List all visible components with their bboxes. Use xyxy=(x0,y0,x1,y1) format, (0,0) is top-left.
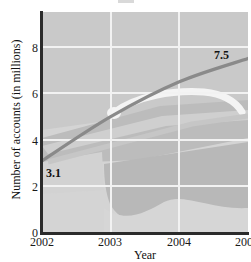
annotation-start-value: 3.1 xyxy=(46,167,61,179)
chart-figure: 8 6 4 2 0 2002 2003 2004 2005 Number of … xyxy=(0,0,251,262)
data-series-line xyxy=(42,12,248,233)
y-axis-title: Number of accounts (in millions) xyxy=(9,20,24,220)
y-axis-spine xyxy=(40,11,43,235)
plot-area xyxy=(42,12,248,233)
x-axis-spine xyxy=(40,232,249,235)
cropped-title-remnant xyxy=(118,0,134,3)
x-axis-title: Year xyxy=(42,248,248,262)
annotation-end-value: 7.5 xyxy=(214,49,229,61)
